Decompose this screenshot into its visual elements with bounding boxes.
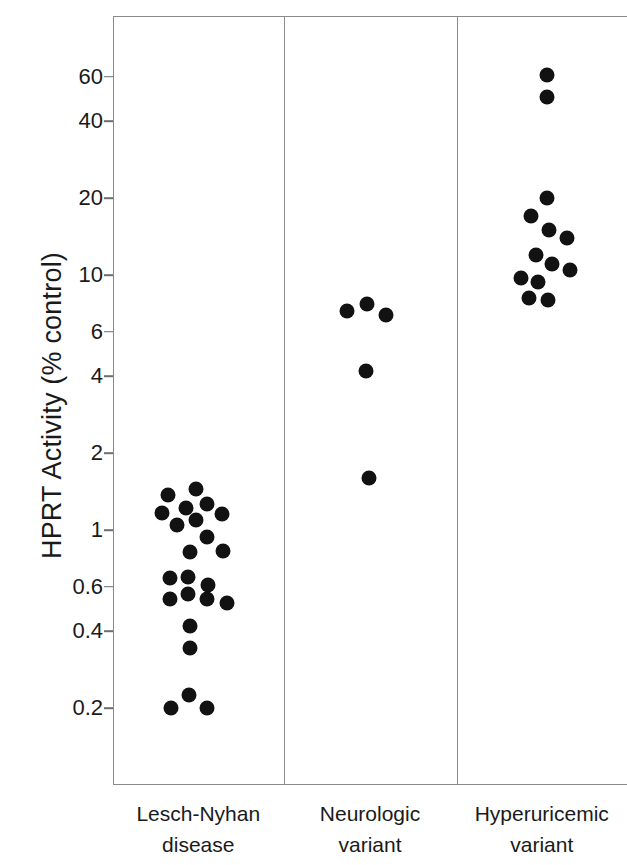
scatter-plot-figure: HPRT Activity (% control) 6040201064210.…: [0, 0, 627, 865]
data-point: [200, 701, 215, 716]
category-label-1: Lesch-Nyhandisease: [113, 798, 284, 860]
category-label-3: Hyperuricemicvariant: [457, 798, 627, 860]
data-point: [540, 89, 555, 104]
data-point: [170, 517, 185, 532]
data-point: [163, 592, 178, 607]
data-point: [181, 569, 196, 584]
data-point: [183, 619, 198, 634]
data-point: [189, 513, 204, 528]
data-point: [215, 506, 230, 521]
category-label-2: Neurologicvariant: [284, 798, 457, 860]
data-point: [359, 364, 374, 379]
data-point: [216, 543, 231, 558]
data-point: [220, 596, 235, 611]
category-label-line-1: Hyperuricemic: [475, 802, 609, 825]
data-point: [200, 592, 215, 607]
data-point: [524, 209, 539, 224]
data-point: [540, 191, 555, 206]
category-label-line-2: disease: [113, 829, 284, 860]
data-point: [201, 577, 216, 592]
data-point: [340, 304, 355, 319]
data-point: [200, 496, 215, 511]
data-point: [189, 481, 204, 496]
data-point: [163, 570, 178, 585]
data-point: [563, 262, 578, 277]
category-label-line-2: variant: [284, 829, 457, 860]
data-point: [200, 529, 215, 544]
category-label-line-1: Lesch-Nyhan: [136, 802, 260, 825]
category-label-line-2: variant: [457, 829, 627, 860]
data-point: [560, 230, 575, 245]
data-point: [522, 291, 537, 306]
data-point: [379, 307, 394, 322]
data-point: [183, 640, 198, 655]
data-point: [529, 247, 544, 262]
data-point: [360, 296, 375, 311]
data-point: [183, 544, 198, 559]
data-point: [164, 701, 179, 716]
data-point: [541, 292, 556, 307]
data-point: [155, 505, 170, 520]
data-point: [540, 67, 555, 82]
data-point: [182, 688, 197, 703]
data-points-layer: [0, 0, 627, 865]
data-point: [181, 587, 196, 602]
category-label-line-1: Neurologic: [320, 802, 420, 825]
data-point: [531, 274, 546, 289]
data-point: [542, 223, 557, 238]
data-point: [545, 257, 560, 272]
data-point: [362, 470, 377, 485]
data-point: [514, 271, 529, 286]
data-point: [161, 488, 176, 503]
